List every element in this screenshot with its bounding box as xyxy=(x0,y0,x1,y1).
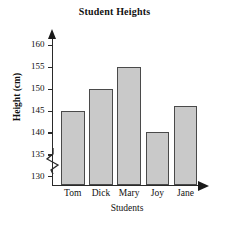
y-tick-label: 135 xyxy=(31,148,45,161)
chart-title: Student Heights xyxy=(0,6,229,17)
plot-area: 130135140145150155160 TomDickMaryJoyJane xyxy=(52,30,207,185)
x-axis-label: Students xyxy=(52,203,202,213)
y-tick-label: 160 xyxy=(31,38,45,51)
x-axis-line xyxy=(52,185,200,186)
y-tick-135: 135 xyxy=(48,154,53,155)
bar-mary xyxy=(117,67,141,185)
y-axis-line xyxy=(52,34,53,185)
x-tick-label-joy: Joy xyxy=(142,188,174,198)
x-tick-label-tom: Tom xyxy=(57,188,89,198)
x-tick-label-mary: Mary xyxy=(113,188,145,198)
bar-joy xyxy=(146,132,170,185)
y-axis-label: Height (cm) xyxy=(12,62,22,132)
y-axis-arrowhead xyxy=(48,29,56,39)
y-tick-label: 145 xyxy=(31,104,45,117)
y-tick-130: 130 xyxy=(48,176,53,177)
y-tick-140: 140 xyxy=(48,132,53,133)
y-tick-155: 155 xyxy=(48,67,53,68)
x-tick-label-dick: Dick xyxy=(85,188,117,198)
y-tick-145: 145 xyxy=(48,111,53,112)
y-tick-label: 140 xyxy=(31,126,45,139)
y-tick-label: 155 xyxy=(31,60,45,73)
x-tick-label-jane: Jane xyxy=(170,188,202,198)
y-tick-150: 150 xyxy=(48,89,53,90)
y-tick-label: 130 xyxy=(31,170,45,183)
bar-chart: Student Heights Height (cm) 130135140145… xyxy=(0,0,229,233)
y-tick-160: 160 xyxy=(48,45,53,46)
y-tick-label: 150 xyxy=(31,82,45,95)
bar-tom xyxy=(61,111,85,186)
bar-dick xyxy=(89,89,113,185)
bar-jane xyxy=(174,106,198,185)
